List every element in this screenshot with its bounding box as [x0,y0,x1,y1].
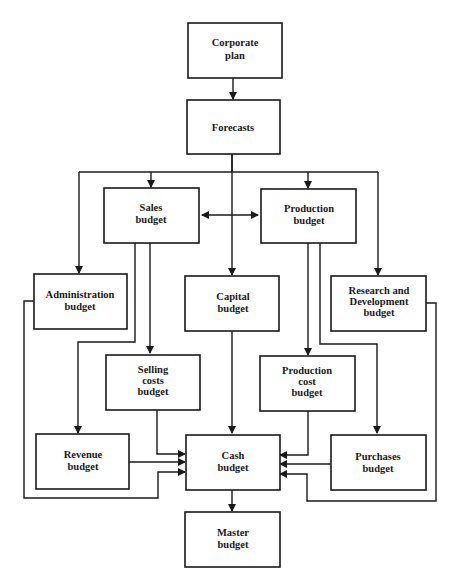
node-rnd-budget: Research andDevelopmentbudget [331,276,426,331]
node-selling-costs-budget: Sellingcostsbudget [106,355,200,410]
node-revenue-budget: Revenuebudget [36,434,129,489]
edge-selling-costs-to-cash [157,410,185,454]
node-cash-budget: Cashbudget [186,435,280,490]
node-purchases-budget: Purchasesbudget [331,435,426,490]
budget-flow-diagram: Corporateplan Forecasts Salesbudget Prod… [0,0,458,584]
svg-text:Revenuebudget: Revenuebudget [64,449,103,472]
edge-production-cost-to-cash [280,411,308,455]
node-sales-budget: Salesbudget [104,188,199,243]
node-production-budget: Productionbudget [261,189,356,243]
node-corporate-plan: Corporateplan [188,23,282,78]
svg-text:Forecasts: Forecasts [212,122,254,133]
node-production-cost-budget: Productioncostbudget [260,356,355,411]
svg-text:Masterbudget: Masterbudget [217,527,249,550]
node-capital-budget: Capitalbudget [185,276,279,331]
svg-text:Salesbudget: Salesbudget [136,202,167,225]
node-administration-budget: Administrationbudget [34,274,127,329]
svg-text:Capitalbudget: Capitalbudget [216,291,249,314]
svg-text:Cashbudget: Cashbudget [218,450,249,473]
node-master-budget: Masterbudget [185,512,280,567]
node-forecasts: Forecasts [187,100,280,154]
